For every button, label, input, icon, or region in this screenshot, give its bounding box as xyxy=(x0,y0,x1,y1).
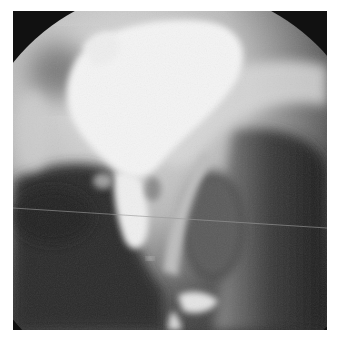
radiograph-image xyxy=(13,11,327,330)
radiograph-frame xyxy=(13,11,327,330)
page xyxy=(0,0,338,337)
